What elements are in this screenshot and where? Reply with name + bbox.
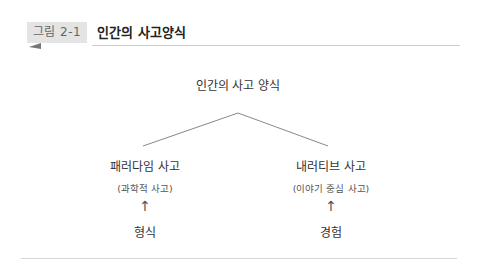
up-arrow-icon: ↑ — [266, 198, 396, 214]
up-arrow-icon: ↑ — [85, 198, 205, 214]
narrative-thinking-label: 내러티브 사고 — [266, 157, 396, 174]
paradigm-thinking-sublabel: (과학적 사고) — [85, 181, 205, 195]
paradigm-source: 형식 — [85, 223, 205, 240]
narrative-thinking-sublabel: (이야기 중심 사고) — [266, 181, 396, 195]
narrative-source: 경험 — [266, 223, 396, 240]
paradigm-thinking-label: 패러다임 사고 — [85, 157, 205, 174]
tree-connectors — [0, 0, 478, 270]
footer-divider — [21, 258, 457, 259]
root-node: 인간의 사고 양식 — [168, 76, 308, 93]
